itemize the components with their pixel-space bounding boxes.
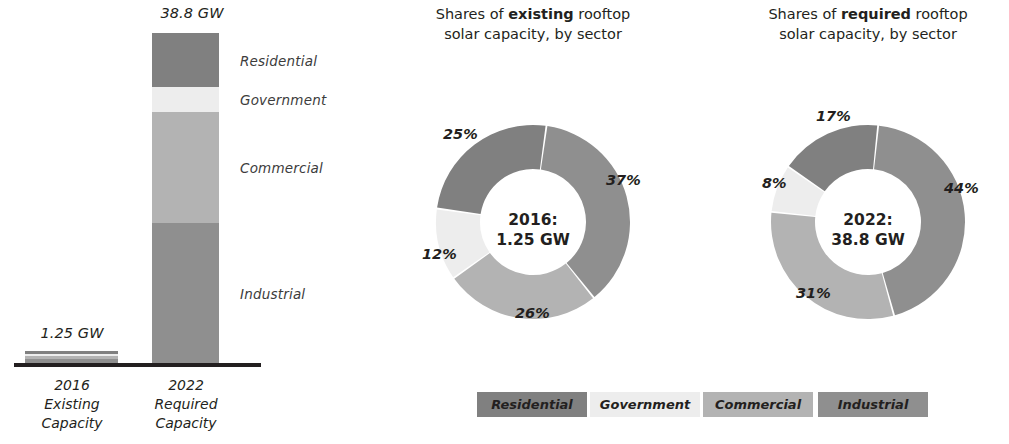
donut-required-center-label: 2022: 38.8 GW (738, 210, 998, 250)
bar-legend-label-commercial: Commercial (240, 160, 323, 176)
donut-required-pct-government: 8% (762, 175, 787, 191)
bar-category-2022-line3: Capacity (121, 414, 251, 433)
stacked-bar-chart: 38.8 GW 1.25 GW Residential Government C… (0, 0, 340, 444)
bar-value-label-required: 38.8 GW (152, 5, 232, 21)
donut-required-title-bold: required (841, 6, 911, 22)
bar-baseline-axis (14, 363, 261, 367)
bar-segment-commercial (152, 112, 219, 223)
donut-existing-pct-residential: 25% (443, 126, 478, 142)
donut-chart-existing: Shares of existing rooftop solar capacit… (403, 0, 663, 380)
donut-required-pct-commercial: 31% (796, 285, 831, 301)
donut-existing-center-year: 2016: (403, 210, 663, 230)
legend-label-industrial: Industrial (838, 397, 909, 412)
donut-existing-pct-government: 12% (422, 246, 457, 262)
bar-column-2016 (25, 351, 118, 363)
legend-item-industrial[interactable]: Industrial (818, 392, 928, 417)
bar-segment-residential (152, 33, 219, 87)
legend-label-residential: Residential (491, 397, 573, 412)
legend-label-commercial: Commercial (715, 397, 801, 412)
donut-required-center-value: 38.8 GW (738, 230, 998, 250)
donut-chart-required: Shares of required rooftop solar capacit… (738, 0, 998, 380)
donut-existing-title-post: rooftop (574, 6, 631, 22)
bar-category-2016-year: 2016 (7, 376, 137, 395)
donut-existing-title-pre: Shares of (436, 6, 509, 22)
donut-required-pct-residential: 17% (816, 108, 851, 124)
bar-legend-label-residential: Residential (240, 53, 317, 69)
legend-item-government[interactable]: Government (590, 392, 700, 417)
bar-category-2016-line2: Existing (7, 395, 137, 414)
bar-category-2016-line3: Capacity (7, 414, 137, 433)
legend-label-government: Government (600, 397, 690, 412)
donut-required-title: Shares of required rooftop solar capacit… (738, 4, 998, 44)
bar-column-2022 (152, 33, 219, 363)
donut-required-title-line2: solar capacity, by sector (779, 26, 957, 42)
donut-required-center-year: 2022: (738, 210, 998, 230)
bar-legend-label-government: Government (240, 92, 326, 108)
legend-item-commercial[interactable]: Commercial (703, 392, 813, 417)
infographic-root: 38.8 GW 1.25 GW Residential Government C… (0, 0, 1009, 444)
bar-segment-industrial (152, 223, 219, 363)
donut-existing-title-bold: existing (508, 6, 573, 22)
donut-required-title-post: rooftop (911, 6, 968, 22)
bar-segment-government (152, 87, 219, 112)
legend-item-residential[interactable]: Residential (477, 392, 587, 417)
donut-existing-center-label: 2016: 1.25 GW (403, 210, 663, 250)
bar-category-2016: 2016 Existing Capacity (7, 376, 137, 433)
donut-existing-title: Shares of existing rooftop solar capacit… (403, 4, 663, 44)
bar-category-2022-line2: Required (121, 395, 251, 414)
donut-required-pct-industrial: 44% (944, 180, 979, 196)
donut-existing-pct-commercial: 26% (515, 305, 550, 321)
donut-existing-pct-industrial: 37% (606, 172, 641, 188)
bar-category-2022-year: 2022 (121, 376, 251, 395)
bar-category-2022: 2022 Required Capacity (121, 376, 251, 433)
donut-existing-title-line2: solar capacity, by sector (444, 26, 622, 42)
bar-legend-label-industrial: Industrial (240, 286, 305, 302)
donut-required-title-pre: Shares of (768, 6, 841, 22)
bar-value-label-existing: 1.25 GW (30, 325, 114, 341)
